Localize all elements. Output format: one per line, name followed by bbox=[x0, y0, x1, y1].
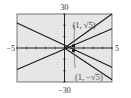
x-min-label: −5 bbox=[6, 44, 15, 53]
y-min-label: −30 bbox=[58, 86, 71, 95]
annotation-upper: (1, √5) bbox=[73, 20, 96, 30]
point-marker-upper bbox=[72, 45, 75, 48]
x-max-label: 5 bbox=[115, 44, 119, 53]
annotation-lower: (1, −√5) bbox=[75, 72, 103, 82]
graph: (1, √5) (1, −√5) 30 −30 −5 5 bbox=[0, 0, 131, 98]
point-marker-lower bbox=[72, 50, 75, 53]
y-max-label: 30 bbox=[61, 3, 69, 12]
